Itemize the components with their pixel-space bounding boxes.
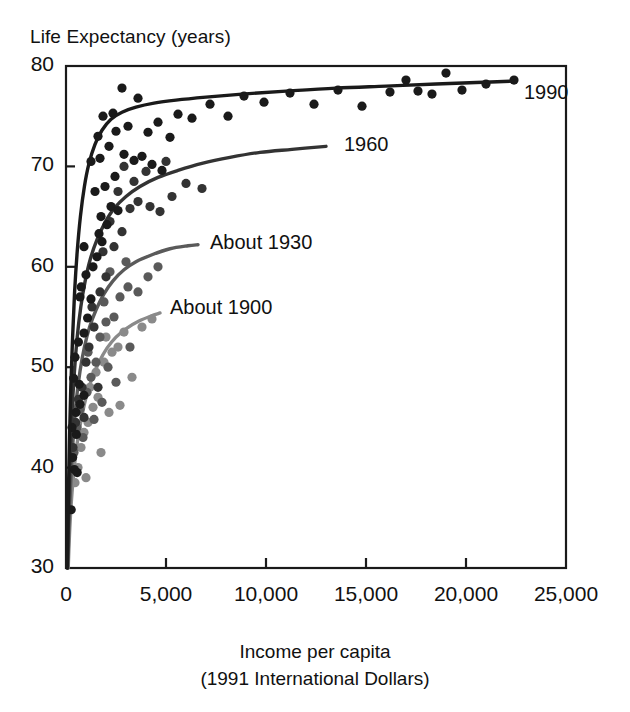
trend-curve [67,146,326,568]
y-tick-label: 30 [0,554,54,578]
scatter-point [173,110,182,119]
scatter-point [187,114,196,123]
scatter-point [71,408,80,417]
y-tick-label: 80 [0,52,54,76]
scatter-point [93,383,102,392]
scatter-point [104,408,113,417]
scatter-point [91,358,100,367]
scatter-point [137,322,146,331]
scatter-point [77,282,86,291]
scatter-point [115,292,124,301]
scatter-point [427,90,436,99]
scatter-point [123,122,132,131]
scatter-point [86,294,95,303]
scatter-point [205,100,214,109]
scatter-point [83,313,92,322]
scatter-point [98,112,107,121]
scatter-point [147,160,156,169]
y-tick-label: 70 [0,152,54,176]
scatter-point [153,262,162,271]
curve-label-1990: 1990 [524,81,569,104]
scatter-point [357,102,366,111]
scatter-point [95,154,104,163]
scatter-point [309,100,318,109]
scatter-point [75,292,84,301]
scatter-point [125,204,134,213]
scatter-point [133,197,142,206]
scatter-point [79,328,88,337]
scatter-point [457,86,466,95]
scatter-point [111,127,120,136]
scatter-point [137,152,146,161]
scatter-point [97,398,106,407]
series-group-1990 [67,68,519,568]
scatter-point [109,242,118,251]
y-tick-label: 50 [0,353,54,377]
x-tick-label: 25,000 [506,582,626,606]
scatter-point [95,332,104,341]
scatter-point [129,177,138,186]
scatter-point [84,343,93,352]
scatter-point [119,150,128,159]
y-tick-label: 40 [0,454,54,478]
scatter-point [89,415,98,424]
scatter-point [104,142,113,151]
scatter-point [101,317,110,326]
scatter-point [79,391,88,400]
scatter-point [88,262,97,271]
plot-frame [66,66,566,568]
scatter-point [441,68,450,77]
scatter-point [123,282,132,291]
scatter-point [385,88,394,97]
scatter-point [87,302,96,311]
scatter-point [133,287,142,296]
series-group-1960 [67,146,326,568]
scatter-point [97,237,106,246]
scatter-point [113,343,122,352]
scatter-point [165,133,174,142]
scatter-point [110,172,119,181]
scatter-point [88,403,97,412]
scatter-point [73,468,82,477]
scatter-point [141,167,150,176]
scatter-point [161,157,170,166]
y-tick-label: 60 [0,253,54,277]
scatter-point [113,206,122,215]
scatter-point [86,373,95,382]
scatter-point [95,287,104,296]
scatter-point [223,112,232,121]
scatter-point [94,229,103,238]
scatter-point [119,162,128,171]
scatter-point [90,187,99,196]
scatter-point [89,322,98,331]
trend-curve [68,245,198,568]
scatter-point [111,378,120,387]
preston-curve-chart: Life Expectancy (years) Income per capit… [0,0,630,712]
scatter-point [81,473,90,482]
scatter-point [153,118,162,127]
scatter-point [143,272,152,281]
scatter-point [125,343,134,352]
scatter-point [127,373,136,382]
scatter-point [401,75,410,84]
scatter-point [79,242,88,251]
curve-label-about-1900: About 1900 [170,296,272,319]
scatter-point [109,312,118,321]
scatter-point [133,94,142,103]
scatter-point [143,128,152,137]
scatter-point [81,270,90,279]
scatter-point [92,252,101,261]
scatter-point [113,187,122,196]
scatter-point [129,156,138,165]
scatter-point [103,363,112,372]
scatter-point [115,401,124,410]
scatter-point [197,184,206,193]
scatter-point [96,448,105,457]
curve-label-about-1930: About 1930 [210,231,312,254]
scatter-point [96,212,105,221]
curve-label-1960: 1960 [344,133,389,156]
scatter-point [74,338,83,347]
scatter-point [167,192,176,201]
scatter-point [145,202,154,211]
scatter-point [79,413,88,422]
